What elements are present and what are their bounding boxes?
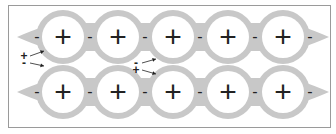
electron-minus-label: -	[252, 83, 257, 100]
electron-minus-label: -	[34, 83, 39, 100]
diagram-canvas: +++++------+++++------ +--+	[0, 0, 336, 134]
electron-minus-label: -	[307, 28, 312, 45]
electron-minus-label: -	[34, 28, 39, 45]
cation-plus-label: +	[164, 75, 182, 108]
cation-plus-label: +	[274, 75, 292, 108]
free-charge-label: +	[132, 63, 139, 77]
electron-minus-label: -	[142, 83, 147, 100]
electron-minus-label: -	[87, 28, 92, 45]
cation-plus-label: +	[54, 75, 72, 108]
cation-plus-label: +	[219, 20, 237, 53]
electron-minus-label: -	[252, 28, 257, 45]
free-charge-label: -	[22, 56, 26, 70]
cation-plus-label: +	[274, 20, 292, 53]
electron-minus-label: -	[197, 83, 202, 100]
top-chain: +++++------	[17, 10, 329, 64]
cation-plus-label: +	[54, 20, 72, 53]
electron-minus-label: -	[307, 83, 312, 100]
electron-minus-label: -	[197, 28, 202, 45]
cation-plus-label: +	[109, 20, 127, 53]
cation-plus-label: +	[109, 75, 127, 108]
cation-plus-label: +	[219, 75, 237, 108]
electron-minus-label: -	[142, 28, 147, 45]
bottom-chain: +++++------	[17, 65, 329, 119]
electron-minus-label: -	[87, 83, 92, 100]
cation-plus-label: +	[164, 20, 182, 53]
